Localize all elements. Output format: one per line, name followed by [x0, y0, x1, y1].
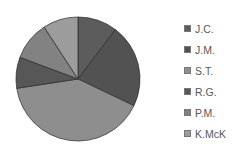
legend-label: K.McK: [195, 128, 226, 140]
legend-swatch: [184, 25, 191, 32]
legend-item: K.McK: [184, 123, 226, 144]
legend-item: R.G.: [184, 81, 226, 102]
legend-item: S.T.: [184, 60, 226, 81]
legend-label: J.C.: [195, 23, 214, 35]
legend-swatch: [184, 88, 191, 95]
legend-label: J.M.: [195, 44, 215, 56]
legend-item: J.C.: [184, 18, 226, 39]
legend-label: P.M.: [195, 107, 215, 119]
legend-label: S.T.: [195, 65, 213, 77]
legend-item: J.M.: [184, 39, 226, 60]
legend-swatch: [184, 46, 191, 53]
legend-swatch: [184, 67, 191, 74]
chart-legend: J.C. J.M. S.T. R.G. P.M. K.McK: [184, 18, 226, 144]
legend-swatch: [184, 130, 191, 137]
pie-chart: [0, 0, 160, 157]
legend-item: P.M.: [184, 102, 226, 123]
legend-swatch: [184, 109, 191, 116]
legend-label: R.G.: [195, 86, 217, 98]
